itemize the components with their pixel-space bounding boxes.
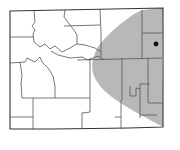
locality-marker bbox=[154, 42, 159, 47]
map-caption bbox=[6, 140, 176, 148]
distribution-range bbox=[92, 8, 163, 127]
wyoming-county-map bbox=[0, 0, 180, 150]
